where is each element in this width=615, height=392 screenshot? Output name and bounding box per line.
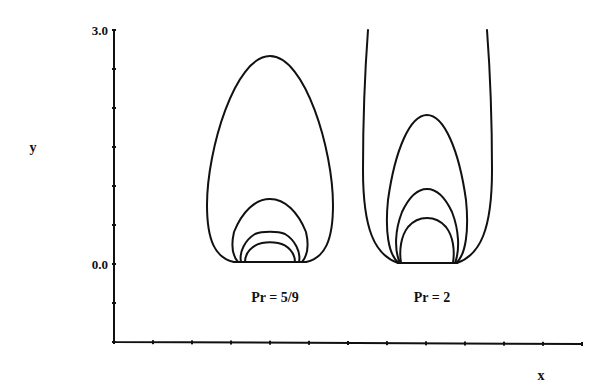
pr59-contour-4	[245, 242, 295, 262]
y-tick	[112, 146, 116, 148]
x-tick	[581, 342, 583, 346]
x-tick	[269, 341, 271, 345]
x-tick	[191, 340, 193, 344]
panel-pr-5-9: Pr = 5/9	[207, 56, 333, 305]
x-tick	[503, 342, 505, 346]
y-tick	[112, 68, 116, 70]
pr2-contour-4	[400, 218, 453, 263]
y-tick	[112, 29, 116, 31]
axes-frame	[114, 30, 582, 344]
pr59-contour-2	[232, 199, 307, 262]
y-tick	[112, 302, 116, 304]
x-tick	[464, 342, 466, 346]
x-tick	[230, 341, 232, 345]
x-tick	[425, 341, 427, 345]
y-tick	[112, 263, 116, 265]
x-tick	[347, 341, 349, 345]
x-tick	[152, 340, 154, 344]
x-tick	[386, 341, 388, 345]
pr59-label: Pr = 5/9	[251, 290, 298, 305]
y-tick	[112, 185, 116, 187]
x-tick	[113, 340, 115, 344]
pr2-contour-open	[363, 30, 492, 263]
pr59-contour-3	[241, 232, 300, 262]
pr2-contour-3	[396, 189, 458, 263]
panel-pr-2: Pr = 2	[363, 30, 492, 305]
y-tick	[112, 107, 116, 109]
y-tick-label-top: 3.0	[92, 23, 108, 38]
y-axis-label: y	[30, 140, 37, 155]
y-tick	[112, 224, 116, 226]
pr2-label: Pr = 2	[414, 290, 451, 305]
y-tick-label-zero: 0.0	[92, 257, 108, 272]
x-axis-label: x	[538, 368, 545, 383]
figure: 3.0 0.0 y x Pr = 5/9 Pr = 2	[0, 0, 615, 392]
x-tick	[542, 342, 544, 346]
x-tick	[308, 341, 310, 345]
